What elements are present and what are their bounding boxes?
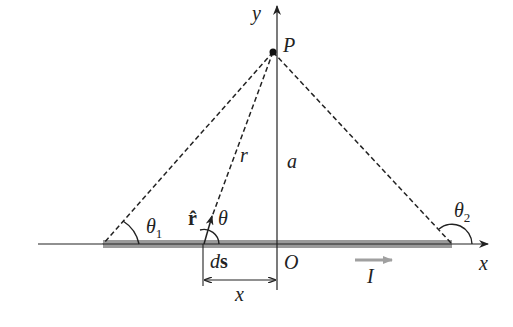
point-p [270,49,277,56]
theta-label: θ [218,207,228,229]
origin-label: O [284,251,298,273]
dashed-line-right-end [273,52,452,244]
point-p-label: P [282,34,295,56]
r-label: r [240,144,248,166]
y-axis-label: y [250,2,261,25]
x-dim-label: x [234,283,244,305]
x-axis-label: x [478,252,488,274]
theta2-label: θ2 [454,199,470,225]
dashed-line-r [210,52,273,222]
theta1-label: θ1 [146,215,162,241]
biot-savart-diagram: y P r a θ1 r̂ θ θ2 ds O I x x [0,0,513,327]
r-hat-label: r̂ [188,207,197,229]
current-label: I [366,265,375,287]
ds-label: ds [210,250,228,272]
a-label: a [287,150,297,172]
